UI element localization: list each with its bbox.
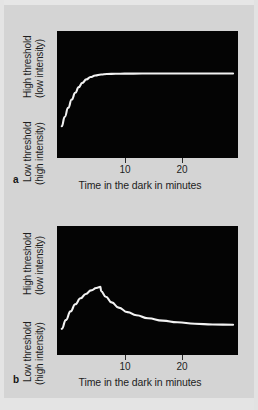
- curve-path: [62, 74, 233, 127]
- plot-area-b: [57, 226, 238, 355]
- y-axis-label-low-line1-b: Low threshold: [22, 322, 34, 382]
- x-tick-label-20-a: 20: [177, 164, 188, 175]
- x-tick-20-a: [182, 158, 183, 163]
- curve-path: [62, 287, 233, 329]
- y-axis-label-high-line1-b: High threshold: [22, 233, 34, 295]
- figure-container: High threshold (low intensity) Low thres…: [0, 0, 258, 410]
- dark-adaptation-curve-a: [57, 31, 238, 158]
- x-tick-label-20-b: 20: [177, 361, 188, 372]
- x-tick-10-b: [125, 355, 126, 360]
- y-axis-label-low-b: Low threshold: [22, 322, 34, 382]
- panel-letter-a: a: [13, 174, 19, 185]
- y-axis-label-high-sub-a: (low intensity): [34, 39, 45, 98]
- dark-adaptation-curve-b: [57, 226, 238, 355]
- y-axis-label-high-b: High threshold: [22, 233, 34, 295]
- y-axis-label-low-line2-a: (high intensity): [34, 122, 45, 185]
- x-tick-10-a: [125, 158, 126, 163]
- panel-a: High threshold (low intensity) Low thres…: [0, 0, 258, 205]
- x-axis-title-b: Time in the dark in minutes: [0, 376, 258, 388]
- y-axis-label-high-a: High threshold: [22, 36, 34, 98]
- y-axis-label-high-line2-b: (low intensity): [34, 236, 45, 295]
- panel-b: High threshold (low intensity) Low thres…: [0, 205, 258, 410]
- y-axis-label-high-line2-a: (low intensity): [34, 39, 45, 98]
- x-tick-label-10-a: 10: [120, 164, 131, 175]
- y-axis-label-low-a: Low threshold: [22, 122, 34, 182]
- plot-area-a: [57, 31, 238, 158]
- x-tick-label-10-b: 10: [120, 361, 131, 372]
- x-axis-title-a: Time in the dark in minutes: [0, 179, 258, 191]
- x-tick-20-b: [182, 355, 183, 360]
- y-axis-label-low-sub-a: (high intensity): [34, 122, 45, 185]
- y-axis-label-high-line1-a: High threshold: [22, 36, 34, 98]
- y-axis-label-low-line1-a: Low threshold: [22, 122, 34, 182]
- y-axis-label-high-sub-b: (low intensity): [34, 236, 45, 295]
- panel-letter-b: b: [13, 374, 19, 385]
